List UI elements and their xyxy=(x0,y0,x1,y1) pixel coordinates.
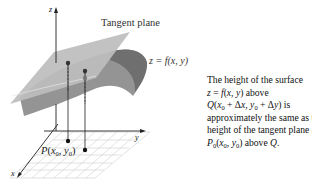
xy-grid xyxy=(10,132,150,178)
point-on-surface-q xyxy=(83,76,87,80)
point-p-base xyxy=(66,139,70,143)
caption-line-5: height of the tangent plane at xyxy=(207,124,312,137)
z-axis-label: z xyxy=(49,6,52,14)
caption-line-6: P0(x0, y0) above Q. xyxy=(207,137,312,150)
point-p-label: P(x0, y0) xyxy=(41,146,76,157)
point-q-base xyxy=(83,148,87,152)
caption-line-1: The height of the surface xyxy=(207,74,312,87)
x-axis-label: x xyxy=(11,170,15,178)
caption-line-2: z = f(x, y) above xyxy=(207,87,312,100)
caption: The height of the surface z = f(x, y) ab… xyxy=(207,74,312,150)
caption-line-3: Q(x0 + Δx, y0 + Δy) is xyxy=(207,99,312,112)
surface-equation-label: z = f(x, y) xyxy=(149,56,188,66)
point-on-plane-q xyxy=(83,69,87,73)
tangent-plane-label: Tangent plane xyxy=(101,18,160,29)
point-on-plane-p xyxy=(66,61,70,65)
y-axis-label: y xyxy=(135,134,139,142)
caption-line-4: approximately the same as the xyxy=(207,112,312,125)
tangent-plane-figure: z y x Tangent plane z = f(x, y) P(x0, y0… xyxy=(0,0,312,180)
